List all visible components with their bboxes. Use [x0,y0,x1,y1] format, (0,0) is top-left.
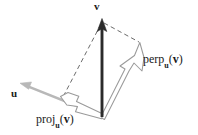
label-proj-subscript: u [55,121,59,130]
label-perp-function-name: perp [143,52,164,66]
vector-v-graphic [97,19,107,118]
dashed-guide-to-proj [64,24,101,95]
dashed-guide-to-perp [104,23,139,42]
dashed-line-right [104,23,139,42]
label-proj-function-name: proj [36,112,55,126]
vector-perp-hollow-body [101,43,145,120]
label-perp-u-v: perpu(v) [143,53,183,68]
label-vector-u: u [11,88,17,99]
vector-decomposition-figure: v u perpu(v) proju(v) [0,0,198,135]
label-perp-subscript: u [164,61,168,70]
label-perp-close-paren: ) [179,52,183,66]
dashed-line-left [64,24,101,95]
label-vector-v: v [94,1,100,12]
label-proj-u-v: proju(v) [36,113,74,128]
vector-perp-graphic [101,43,145,120]
label-proj-close-paren: ) [70,112,74,126]
